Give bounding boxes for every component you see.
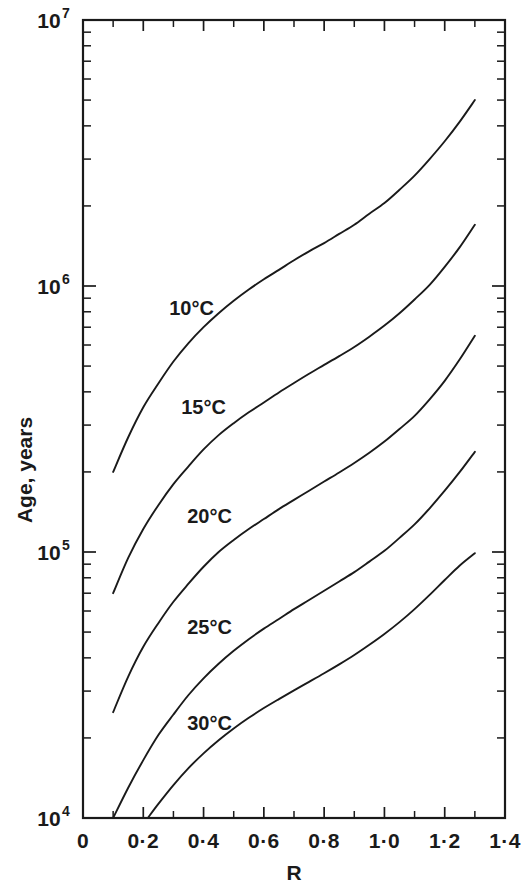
x-tick-label: 1·0: [369, 829, 401, 852]
y-axis-title: Age, years: [13, 417, 36, 523]
x-tick-label: 0·8: [308, 829, 340, 852]
x-axis-title: R: [286, 861, 301, 884]
curve-label-10c: 10°C: [169, 297, 214, 319]
x-tick-label: 1·4: [489, 829, 521, 852]
x-tick-label: 0·6: [248, 829, 280, 852]
y-tick-label-exponent: 5: [62, 537, 70, 553]
curve-label-15c: 15°C: [181, 396, 226, 418]
y-tick-label-base: 10: [37, 807, 60, 830]
age-vs-R-log-chart: 00·20·40·60·81·01·21·4 104105106107 10°C…: [0, 0, 524, 896]
y-tick-label-base: 10: [37, 541, 60, 564]
x-tick-label: 1·2: [429, 829, 461, 852]
curve-label-20c: 20°C: [187, 505, 232, 527]
y-tick-label-exponent: 4: [62, 803, 70, 819]
x-tick-label: 0: [77, 829, 89, 852]
curve-label-30c: 30°C: [187, 712, 232, 734]
y-tick-label-base: 10: [37, 275, 60, 298]
chart-figure: 00·20·40·60·81·01·21·4 104105106107 10°C…: [0, 0, 524, 896]
x-tick-label: 0·4: [188, 829, 220, 852]
y-tick-label-exponent: 6: [62, 271, 70, 287]
chart-background: [0, 0, 524, 896]
x-tick-label: 0·2: [128, 829, 160, 852]
y-tick-label-base: 10: [37, 9, 60, 32]
y-tick-label-exponent: 7: [62, 5, 70, 21]
curve-label-25c: 25°C: [187, 616, 232, 638]
